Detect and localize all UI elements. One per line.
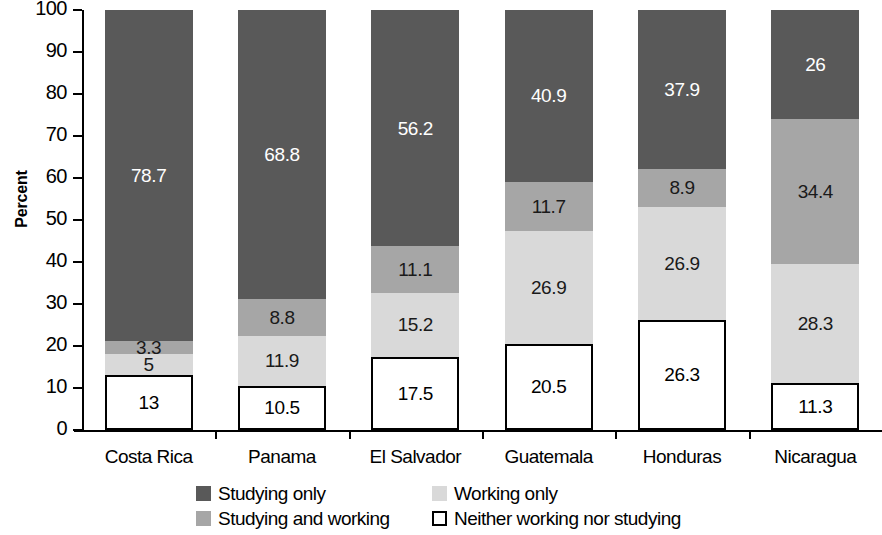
bar-segment-value: 17.5 (398, 384, 433, 403)
bar-segment-working_only[interactable]: 11.9 (238, 336, 326, 386)
bar-segment-value: 11.7 (532, 197, 566, 216)
bar-segment-value: 5 (144, 355, 154, 374)
y-axis-title: Percent (13, 139, 31, 259)
bar-segment-value: 11.1 (398, 260, 432, 279)
chart-legend: Studying onlyWorking onlyStudying and wo… (196, 481, 756, 531)
bar-segment-value: 68.8 (264, 145, 299, 164)
bar-segment-neither[interactable]: 17.5 (371, 357, 459, 431)
bar-segment-studying_working[interactable]: 8.9 (638, 169, 726, 206)
y-axis-tick: 100 (73, 9, 82, 11)
x-axis-tick (482, 430, 484, 439)
bar-segment-neither[interactable]: 11.3 (771, 383, 859, 430)
x-axis-tick (349, 430, 351, 439)
y-axis-tick: 20 (73, 345, 82, 347)
bar-segment-value: 20.5 (531, 377, 566, 396)
bar-segment-value: 8.9 (669, 178, 694, 197)
bar-segment-value: 26.3 (664, 365, 699, 384)
bar-segment-neither[interactable]: 26.3 (638, 320, 726, 430)
bar-segment-working_only[interactable]: 28.3 (771, 264, 859, 383)
legend-label: Working only (454, 483, 557, 505)
bar-segment-studying_only[interactable]: 68.8 (238, 10, 326, 299)
bar-segment-value: 15.2 (398, 315, 433, 334)
y-axis-tick-label: 100 (35, 0, 67, 20)
y-axis-tick: 30 (73, 303, 82, 305)
x-axis-tick (615, 430, 617, 439)
bar-segment-value: 78.7 (131, 166, 166, 185)
legend-swatch-icon (196, 486, 211, 501)
y-axis-tick-label: 90 (46, 39, 67, 62)
bar-segment-value: 26.9 (531, 278, 566, 297)
legend-swatch-icon (432, 486, 447, 501)
bar-segment-neither[interactable]: 13 (105, 375, 193, 430)
y-axis-tick-label: 50 (46, 207, 67, 230)
bar-segment-neither[interactable]: 10.5 (238, 386, 326, 430)
legend-item-studying-working[interactable]: Studying and working (196, 508, 432, 530)
bar-segment-value: 40.9 (531, 86, 566, 105)
x-axis-tick (215, 430, 217, 439)
bar-segment-studying_working[interactable]: 3.3 (105, 341, 193, 355)
bar-segment-studying_only[interactable]: 78.7 (105, 10, 193, 341)
y-axis-tick: 80 (73, 93, 82, 95)
legend-item-working-only[interactable]: Working only (432, 483, 756, 505)
bar-segment-value: 8.8 (269, 308, 294, 327)
legend-label: Studying and working (218, 508, 390, 530)
bar-segment-value: 26 (805, 55, 825, 74)
legend-swatch-icon (196, 511, 211, 526)
bar-segment-working_only[interactable]: 15.2 (371, 293, 459, 357)
y-axis-tick: 0 (73, 429, 82, 431)
bar-segment-value: 11.3 (798, 397, 832, 416)
bar-costa-rica[interactable]: 78.73.3513 (105, 10, 193, 430)
bar-segment-working_only[interactable]: 5 (105, 354, 193, 375)
bar-honduras[interactable]: 37.98.926.926.3 (638, 10, 726, 430)
bar-segment-value: 10.5 (264, 398, 299, 417)
x-axis-tick (749, 430, 751, 439)
y-axis-tick: 10 (73, 387, 82, 389)
bar-segment-studying_working[interactable]: 8.8 (238, 299, 326, 336)
bar-segment-value: 34.4 (798, 182, 833, 201)
bar-segment-value: 28.3 (798, 314, 833, 333)
y-axis-tick-label: 80 (46, 81, 67, 104)
y-axis-line (82, 10, 84, 431)
legend-label: Neither working nor studying (454, 508, 681, 530)
plot-area: 100908070605040302010078.73.3513Costa Ri… (82, 10, 882, 430)
bar-segment-value: 56.2 (398, 119, 433, 138)
y-axis-tick-label: 20 (46, 333, 67, 356)
y-axis-tick-label: 10 (46, 375, 67, 398)
bar-guatemala[interactable]: 40.911.726.920.5 (505, 10, 593, 430)
y-axis-tick-label: 70 (46, 123, 67, 146)
legend-item-studying-only[interactable]: Studying only (196, 483, 432, 505)
bar-segment-value: 11.9 (265, 351, 299, 370)
y-axis-tick-label: 40 (46, 249, 67, 272)
bar-segment-working_only[interactable]: 26.9 (505, 231, 593, 344)
legend-label: Studying only (218, 483, 326, 505)
bar-segment-value: 13 (138, 393, 158, 412)
bar-segment-working_only[interactable]: 26.9 (638, 207, 726, 320)
bar-el-salvador[interactable]: 56.211.115.217.5 (371, 10, 459, 430)
bar-nicaragua[interactable]: 2634.428.311.3 (771, 10, 859, 430)
legend-item-neither[interactable]: Neither working nor studying (432, 508, 756, 530)
bar-panama[interactable]: 68.88.811.910.5 (238, 10, 326, 430)
y-axis-tick: 40 (73, 261, 82, 263)
y-axis-tick: 50 (73, 219, 82, 221)
bar-segment-value: 26.9 (664, 254, 699, 273)
bar-segment-studying_only[interactable]: 40.9 (505, 10, 593, 182)
y-axis-tick: 70 (73, 135, 82, 137)
bar-segment-studying_working[interactable]: 11.1 (371, 246, 459, 293)
bar-segment-studying_working[interactable]: 34.4 (771, 119, 859, 263)
bar-segment-studying_working[interactable]: 11.7 (505, 182, 593, 231)
bar-segment-studying_only[interactable]: 37.9 (638, 10, 726, 169)
x-axis-category-label: Nicaragua (735, 446, 882, 468)
stacked-bar-chart: Percent 100908070605040302010078.73.3513… (0, 0, 882, 535)
bar-segment-studying_only[interactable]: 26 (771, 10, 859, 119)
bar-segment-value: 37.9 (664, 80, 699, 99)
legend-swatch-icon (432, 511, 447, 526)
y-axis-tick-label: 60 (46, 165, 67, 188)
y-axis-tick: 90 (73, 51, 82, 53)
x-axis-line (74, 430, 882, 432)
y-axis-tick: 60 (73, 177, 82, 179)
y-axis-tick-label: 0 (56, 417, 67, 440)
bar-segment-neither[interactable]: 20.5 (505, 344, 593, 430)
y-axis-tick-label: 30 (46, 291, 67, 314)
bar-segment-studying_only[interactable]: 56.2 (371, 10, 459, 246)
